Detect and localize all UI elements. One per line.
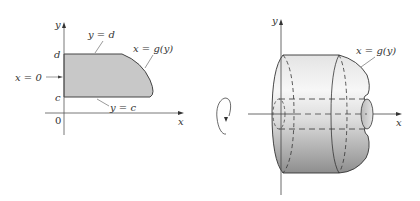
rotation-arrow-icon [217,98,231,134]
label-y-equals-c: y = c [109,102,136,113]
y-axis-label: y [271,15,278,26]
label-x-equals-g-y: x = g(y) [133,43,173,54]
x-axis-label: x [178,116,184,127]
origin-label: 0 [55,115,61,126]
label-y-equals-d: y = d [87,29,115,40]
tick-d-label: d [54,49,60,60]
x-axis-arrow-icon [178,111,184,115]
tick-c-label: c [55,92,61,103]
label-x-equals-0: x = 0 [15,72,42,83]
x-axis-label: x [396,117,402,128]
right-panel: y x x = g(y) [248,15,402,195]
y-axis-arrow-icon [62,22,66,28]
leader-line-curve [145,55,153,68]
leader-line-curve [361,57,375,67]
y-axis-label: y [54,19,61,30]
left-panel: y x 0 d c y = d y = c x = 0 x = g(y) [15,19,184,135]
y-axis-arrow-icon [279,19,283,25]
leader-arrow-icon [58,76,63,79]
x-axis-arrow-icon [396,112,402,116]
leader-line-top [95,41,103,53]
diagram-canvas: y x 0 d c y = d y = c x = 0 x = g(y) [0,0,420,201]
shaded-region [64,54,153,97]
leader-line-bottom [97,99,109,106]
label-x-equals-g-y: x = g(y) [356,45,396,56]
